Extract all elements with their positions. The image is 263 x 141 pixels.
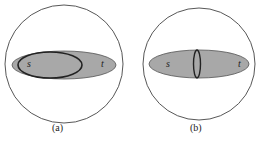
caption-b: (b) — [190, 122, 202, 133]
label-t-b: t — [238, 58, 241, 69]
diagram-canvas — [0, 0, 263, 141]
label-s-b: s — [166, 58, 170, 69]
label-t-a: t — [101, 58, 104, 69]
panel-a — [5, 5, 123, 123]
caption-a: (a) — [52, 122, 63, 133]
label-s-a: s — [27, 58, 31, 69]
